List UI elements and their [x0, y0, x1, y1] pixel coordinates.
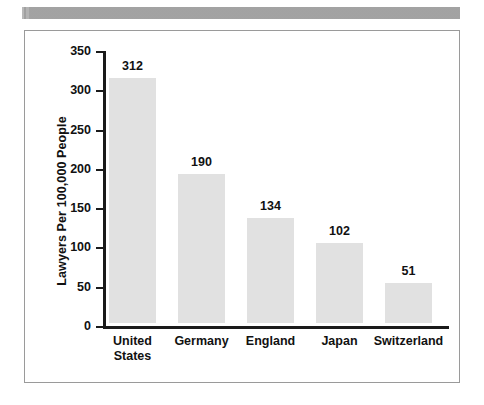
bar-rect[interactable] — [247, 218, 294, 323]
x-axis-category-label: UnitedStates — [93, 334, 172, 364]
y-axis-title: Lawyers Per 100,000 People — [55, 81, 71, 321]
y-tick-label: 300 — [70, 83, 91, 97]
bar-value-label: 51 — [385, 264, 432, 278]
y-tick-label: 250 — [70, 123, 91, 137]
y-tick-mark — [96, 247, 103, 249]
bar-group[interactable]: 102Japan — [316, 242, 363, 323]
top-gray-band — [22, 7, 460, 19]
y-tick-label: 0 — [84, 319, 91, 333]
category-line: States — [93, 349, 172, 364]
bar-value-label: 312 — [109, 59, 156, 73]
bar-value-label: 102 — [316, 224, 363, 238]
bar-value-label: 134 — [247, 199, 294, 213]
bar-group[interactable]: 134England — [247, 217, 294, 323]
y-tick-mark — [96, 287, 103, 289]
bar-rect[interactable] — [316, 243, 363, 323]
y-tick-mark — [96, 90, 103, 92]
category-line: Switzerland — [369, 334, 448, 349]
bar-group[interactable]: 312UnitedStates — [109, 77, 156, 323]
y-axis-line — [103, 51, 106, 327]
x-axis-line — [103, 326, 449, 329]
x-axis-category-label: Germany — [162, 334, 241, 349]
bar-rect[interactable] — [385, 283, 432, 323]
category-line: United — [93, 334, 172, 349]
bar-group[interactable]: 190Germany — [178, 173, 225, 323]
x-axis-category-label: Switzerland — [369, 334, 448, 349]
y-tick-label: 100 — [70, 240, 91, 254]
category-line: Japan — [300, 334, 379, 349]
y-tick-label: 200 — [70, 162, 91, 176]
y-tick-mark — [96, 130, 103, 132]
bar-rect[interactable] — [109, 78, 156, 323]
y-tick-mark — [96, 326, 103, 328]
y-tick-mark — [96, 51, 103, 53]
x-axis-category-label: Japan — [300, 334, 379, 349]
y-tick-label: 350 — [70, 44, 91, 58]
bar-group[interactable]: 51Switzerland — [385, 282, 432, 323]
chart-figure-frame: Lawyers Per 100,000 People 0501001502002… — [24, 30, 460, 383]
y-tick-mark — [96, 169, 103, 171]
bar-value-label: 190 — [178, 155, 225, 169]
x-axis-category-label: England — [231, 334, 310, 349]
y-tick-label: 150 — [70, 201, 91, 215]
y-tick-label: 50 — [77, 280, 91, 294]
bar-rect[interactable] — [178, 174, 225, 323]
category-line: England — [231, 334, 310, 349]
plot-area: 050100150200250300350 312UnitedStates190… — [103, 51, 449, 326]
y-tick-mark — [96, 208, 103, 210]
category-line: Germany — [162, 334, 241, 349]
